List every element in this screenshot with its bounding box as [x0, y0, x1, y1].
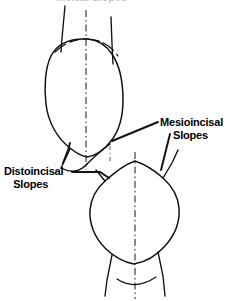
incisal-slopes-figure: Incisal Slopes Mesioincisal Slopes Disto… [0, 0, 230, 301]
mesioincisal-slopes-label: Mesioincisal Slopes [160, 116, 223, 141]
upper-root-distal-line [111, 17, 113, 64]
distoincisal-label-line1: Distoincisal [4, 165, 63, 177]
tooth-diagram-canvas [0, 0, 230, 301]
distoincisal-label-line2: Slopes [4, 178, 63, 191]
upper-tooth-crown-outline [45, 39, 123, 157]
mesioincisal-label-line1: Mesioincisal [160, 116, 223, 128]
lower-root-mesial-line [158, 252, 165, 296]
upper-tooth-incisal-notch-right [87, 144, 110, 164]
distoincisal-slopes-label: Distoincisal Slopes [4, 165, 63, 190]
top-caption-label: Incisal Slopes [56, 0, 127, 4]
mesioincisal-label-line2: Slopes [160, 129, 223, 142]
leader-distoincisal-to-lower-tooth [72, 172, 109, 178]
top-caption-text: Incisal Slopes [56, 0, 127, 3]
lower-root-cervical-arc [117, 277, 156, 285]
lower-root-distal-line [105, 255, 112, 296]
upper-tooth-incisal-notch-left [61, 164, 87, 171]
